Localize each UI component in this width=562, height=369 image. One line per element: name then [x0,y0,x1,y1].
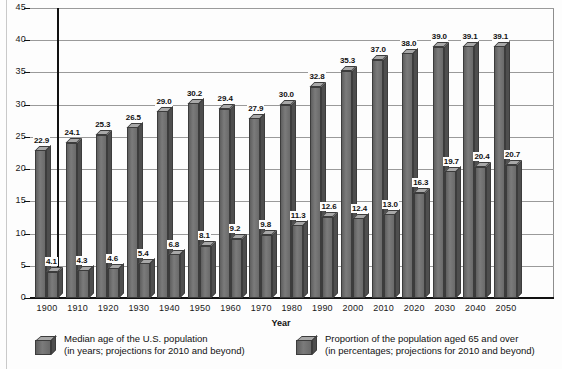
y-axis-tick-label: 5 [0,260,26,270]
bar-front-face [96,135,107,298]
bar-value-label: 6.8 [167,240,180,249]
x-axis-tick-label: 1960 [214,303,248,313]
bar-value-label: 4.3 [76,256,89,265]
bar-value-label: 20.4 [473,152,490,161]
legend-label-line1: Proportion of the population aged 65 and… [325,333,535,345]
bar-front-face [414,193,425,298]
x-axis-tick-label: 2020 [397,303,431,313]
bar-value-label: 8.1 [198,231,211,240]
y-axis-tick-label: 15 [0,195,26,205]
bar-value-label: 4.6 [106,254,119,263]
bar-2050-series2 [506,160,522,298]
bar-front-face [280,105,291,298]
bar-front-face [433,47,444,298]
x-axis-tick-label: 2040 [458,303,492,313]
bar-value-label: 5.4 [137,249,150,258]
bar-front-face [139,263,150,298]
bar-front-face [292,225,303,298]
bar-value-label: 22.9 [33,136,50,145]
y-axis-tick-label: 30 [0,99,26,109]
bar-value-label: 39.1 [492,32,509,41]
x-axis-tick-label: 1950 [183,303,217,313]
bar-value-label: 13.0 [382,200,399,209]
bar-front-face [353,218,364,298]
bar-front-face [188,103,199,298]
bar-front-face [169,254,180,298]
bar-front-face [445,171,456,298]
bar-front-face [200,246,211,298]
x-axis-tick-label: 1940 [152,303,186,313]
bar-value-label: 12.6 [320,202,337,211]
bar-value-label: 39.0 [431,32,448,41]
bar-front-face [219,109,230,298]
x-axis-tick-label: 1970 [244,303,278,313]
bar-front-face [78,270,89,298]
bar-side-face [425,188,430,298]
bar-front-face [402,53,413,298]
bar-value-label: 19.7 [443,157,460,166]
bar-value-label: 30.2 [186,89,203,98]
x-axis-tick-label: 1900 [30,303,64,313]
x-axis-tick-label: 1990 [305,303,339,313]
legend-swatch-icon [296,336,318,355]
bar-front-face [463,46,474,298]
bar-front-face [249,118,260,298]
bar-front-face [384,214,395,298]
legend-label-line2: (in percentages; projections for 2010 an… [325,345,535,357]
bar-value-label: 9.8 [259,220,272,229]
bar-side-face [180,250,185,298]
y-axis-tick-label: 0 [0,292,26,302]
bar-1960-series2 [231,234,247,298]
bar-value-label: 16.3 [412,178,429,187]
bar-side-face [303,221,308,298]
bar-side-face [119,264,124,298]
bar-value-label: 35.3 [339,56,356,65]
bar-front-face [157,111,168,298]
bar-front-face [494,46,505,298]
x-axis-title: Year [0,318,562,328]
bar-side-face [517,160,522,298]
y-axis-tick-label: 25 [0,131,26,141]
page-left-rule [6,0,7,369]
bar-2020-series2 [414,188,430,298]
x-axis-tick-label: 1920 [91,303,125,313]
legend-swatch-icon [35,336,57,355]
bar-side-face [150,259,155,298]
bar-value-label: 37.0 [370,45,387,54]
bar-value-label: 26.5 [125,113,142,122]
x-axis-tick-label: 2010 [367,303,401,313]
bar-side-face [211,241,216,298]
bar-side-face [364,214,369,298]
bar-2010-series2 [384,210,400,298]
legend-item-proportion-65plus: Proportion of the population aged 65 and… [296,333,535,357]
chart-root: 051015202530354045 22.94.124.14.325.34.6… [0,0,562,369]
legend-item-median-age: Median age of the U.S. population (in ye… [35,333,245,357]
legend-label-median-age: Median age of the U.S. population (in ye… [64,333,245,357]
y-axis-tick-label: 35 [0,66,26,76]
legend-label-line1: Median age of the U.S. population [64,333,245,345]
bar-2040-series2 [475,162,491,298]
bar-value-label: 9.2 [229,224,242,233]
bar-front-face [127,127,138,298]
bar-front-face [506,165,517,298]
bar-front-face [372,60,383,298]
bar-value-label: 24.1 [64,128,81,137]
x-axis-tick-label: 1930 [122,303,156,313]
bar-1980-series2 [292,221,308,298]
bar-2000-series2 [353,214,369,298]
legend-label-line2: (in years; projections for 2010 and beyo… [64,345,245,357]
bar-front-face [310,87,321,298]
bar-front-face [35,150,46,298]
bar-side-face [272,230,277,298]
bar-front-face [322,217,333,298]
bar-value-label: 30.0 [278,90,295,99]
bar-front-face [475,167,486,298]
bar-1930-series2 [139,259,155,298]
bar-side-face [89,266,94,298]
bar-value-label: 39.1 [461,32,478,41]
bar-value-label: 38.0 [400,39,417,48]
bar-side-face [242,234,247,298]
bar-side-face [58,267,63,298]
y-axis-tick-label: 20 [0,163,26,173]
bar-1900-series2 [47,267,63,298]
